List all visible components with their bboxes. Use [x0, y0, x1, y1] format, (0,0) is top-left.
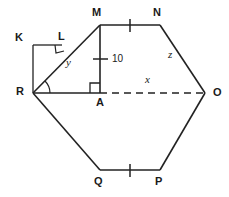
vertex-label-R: R — [16, 86, 24, 97]
figure-canvas — [0, 0, 229, 197]
segment-QR — [33, 93, 100, 170]
measure-label-y: y — [66, 57, 71, 68]
angle-arc-R — [45, 81, 50, 93]
vertex-label-O: O — [213, 87, 222, 98]
right-angle-mark-A — [90, 83, 100, 93]
segment-NO — [160, 25, 205, 93]
measure-label-altitude: 10 — [112, 54, 123, 64]
measure-label-x: x — [145, 74, 150, 85]
vertex-label-M: M — [92, 7, 101, 18]
segment-OP — [160, 93, 205, 170]
vertex-label-N: N — [153, 7, 161, 18]
vertex-label-L: L — [58, 31, 65, 42]
measure-label-z: z — [168, 49, 172, 60]
vertex-label-K: K — [15, 32, 23, 43]
vertex-label-A: A — [96, 97, 104, 108]
geometry-figure: M N O P Q R K L A 10 x y z — [0, 0, 229, 197]
vertex-label-Q: Q — [94, 176, 103, 187]
right-angle-mark-L — [55, 45, 64, 53]
vertex-label-P: P — [155, 176, 162, 187]
